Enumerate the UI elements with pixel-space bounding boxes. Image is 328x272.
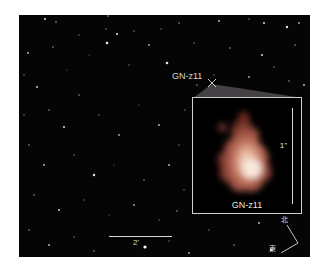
compass-east-label: 東	[269, 243, 276, 253]
zoom-inset: 1" GN-z11	[192, 97, 302, 214]
inset-scale-bar	[292, 108, 293, 204]
target-label: GN-z11	[172, 71, 202, 81]
inset-label: GN-z11	[193, 200, 301, 210]
scale-bar-label: 2'	[133, 238, 139, 247]
galaxy-image	[193, 98, 301, 213]
compass-icon	[281, 225, 298, 253]
scale-bar	[109, 236, 172, 237]
compass-north-label: 北	[281, 214, 288, 224]
deep-field-image: GN-z11 1" GN-z11 2' 北 東	[19, 15, 310, 257]
inset-scale-label: 1"	[280, 141, 287, 150]
